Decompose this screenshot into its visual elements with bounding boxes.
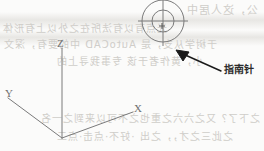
compass-callout-label: 指南针 bbox=[224, 64, 254, 75]
compass-center-plus-marker bbox=[159, 23, 165, 29]
callout-arrow-shaft bbox=[183, 54, 221, 71]
figure-canvas: 公，这人居中 光点有以有法所在之外以上有形体 于树学从支，是 AutoCAD 中… bbox=[0, 0, 264, 151]
callout-arrow-head bbox=[176, 50, 189, 61]
diagram-vector-layer bbox=[0, 0, 264, 151]
z-axis-label: Z bbox=[57, 38, 64, 49]
y-axis-line bbox=[8, 98, 62, 138]
x-axis-line bbox=[62, 112, 133, 138]
callout-arrow bbox=[176, 50, 221, 71]
x-axis-label: X bbox=[134, 103, 142, 114]
compass-widget[interactable] bbox=[138, 0, 188, 46]
y-axis-label: Y bbox=[5, 88, 13, 99]
coordinate-axes-tripod bbox=[8, 48, 133, 138]
